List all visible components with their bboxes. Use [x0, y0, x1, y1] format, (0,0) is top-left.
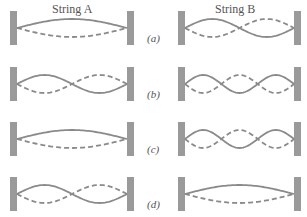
wall-right [127, 177, 134, 211]
wave-dashed [185, 75, 294, 93]
wall-right [294, 122, 301, 156]
wall-right [294, 67, 301, 101]
wave-dashed [17, 28, 127, 37]
string-a-row-3 [10, 122, 134, 156]
standing-waves-diagram: String A String B (a)(b)(c)(d) [0, 0, 307, 217]
wave-dashed [17, 75, 127, 93]
wall-left [178, 177, 185, 211]
row-label: (b) [147, 88, 160, 101]
wall-left [10, 122, 17, 156]
wave-solid [185, 185, 294, 194]
wall-right [127, 11, 134, 45]
wall-left [10, 177, 17, 211]
wave-solid [17, 19, 127, 28]
wall-left [178, 122, 185, 156]
wave-dashed [17, 139, 127, 148]
wall-right [127, 122, 134, 156]
string-b-row-4 [178, 177, 301, 211]
string-a-row-1 [10, 11, 134, 45]
wave-dashed [185, 194, 294, 203]
row-label: (d) [147, 198, 160, 211]
title-string-a: String A [52, 2, 93, 16]
string-b-row-2 [178, 67, 301, 101]
wall-right [127, 67, 134, 101]
wall-left [178, 67, 185, 101]
wave-solid [17, 130, 127, 139]
string-b-row-1 [178, 11, 301, 45]
wall-left [10, 11, 17, 45]
string-a-row-4 [10, 177, 134, 211]
wave-dashed [185, 19, 294, 37]
wall-left [178, 11, 185, 45]
wall-right [294, 11, 301, 45]
string-a-row-2 [10, 67, 134, 101]
wall-right [294, 177, 301, 211]
wall-left [10, 67, 17, 101]
wave-dashed [17, 185, 127, 203]
wave-dashed [185, 130, 294, 148]
string-b-row-3 [178, 122, 301, 156]
wave-solid [185, 130, 294, 148]
title-string-b: String B [215, 2, 255, 16]
wave-solid [185, 75, 294, 93]
row-label: (a) [147, 32, 160, 45]
row-label: (c) [147, 143, 160, 156]
